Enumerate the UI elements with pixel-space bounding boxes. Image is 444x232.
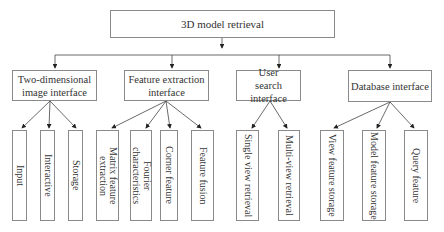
leaf-single-view-retrieval: Single view retrieval xyxy=(236,130,259,221)
leaf-corner-feature: Corner feature xyxy=(160,130,178,221)
leaf-label: Corner feature xyxy=(164,146,175,204)
leaf-label: Feature fusion xyxy=(197,147,208,205)
leaf-fourier-characteristics: Fourier characteristics xyxy=(130,130,152,221)
root-node: 3D model retrieval xyxy=(110,10,335,38)
leaf-matrix-feature-extraction: Matrix feature extraction xyxy=(96,130,119,221)
leaf-label: Single view retrieval xyxy=(242,134,253,217)
module-feature-extraction-interface: Feature extraction interface xyxy=(124,70,209,101)
leaf-label: Query feature xyxy=(411,148,422,203)
module-label: Two-dimensional image interface xyxy=(13,73,96,99)
root-label: 3D model retrieval xyxy=(181,18,264,31)
module-two-dimensional-image-interface: Two-dimensional image interface xyxy=(12,70,97,101)
module-user-search-interface: User search interface xyxy=(236,70,301,101)
module-label: Feature extraction interface xyxy=(125,73,208,99)
leaf-model-feature-storage: Model feature storage xyxy=(362,130,386,221)
leaf-interactive: Interactive xyxy=(40,130,55,221)
leaf-feature-fusion: Feature fusion xyxy=(191,130,214,221)
leaf-label: Fourier characteristics xyxy=(131,131,152,220)
leaf-query-feature: Query feature xyxy=(404,130,428,221)
leaf-storage: Storage xyxy=(68,130,83,221)
leaf-label: Storage xyxy=(70,160,81,191)
leaf-multi-view-retrieval: Multi-view retrieval xyxy=(278,130,300,221)
leaf-label: Model feature storage xyxy=(369,132,380,220)
leaf-input: Input xyxy=(12,130,27,221)
leaf-view-feature-storage: View feature storage xyxy=(320,130,344,221)
module-database-interface: Database interface xyxy=(348,70,432,102)
leaf-label: Matrix feature extraction xyxy=(97,131,118,220)
module-label: User search interface xyxy=(245,66,292,105)
leaf-label: Input xyxy=(14,165,25,186)
leaf-label: Multi-view retrieval xyxy=(284,135,295,216)
module-label: Database interface xyxy=(351,80,429,93)
leaf-label: View feature storage xyxy=(327,134,338,217)
leaf-label: Interactive xyxy=(42,154,53,197)
